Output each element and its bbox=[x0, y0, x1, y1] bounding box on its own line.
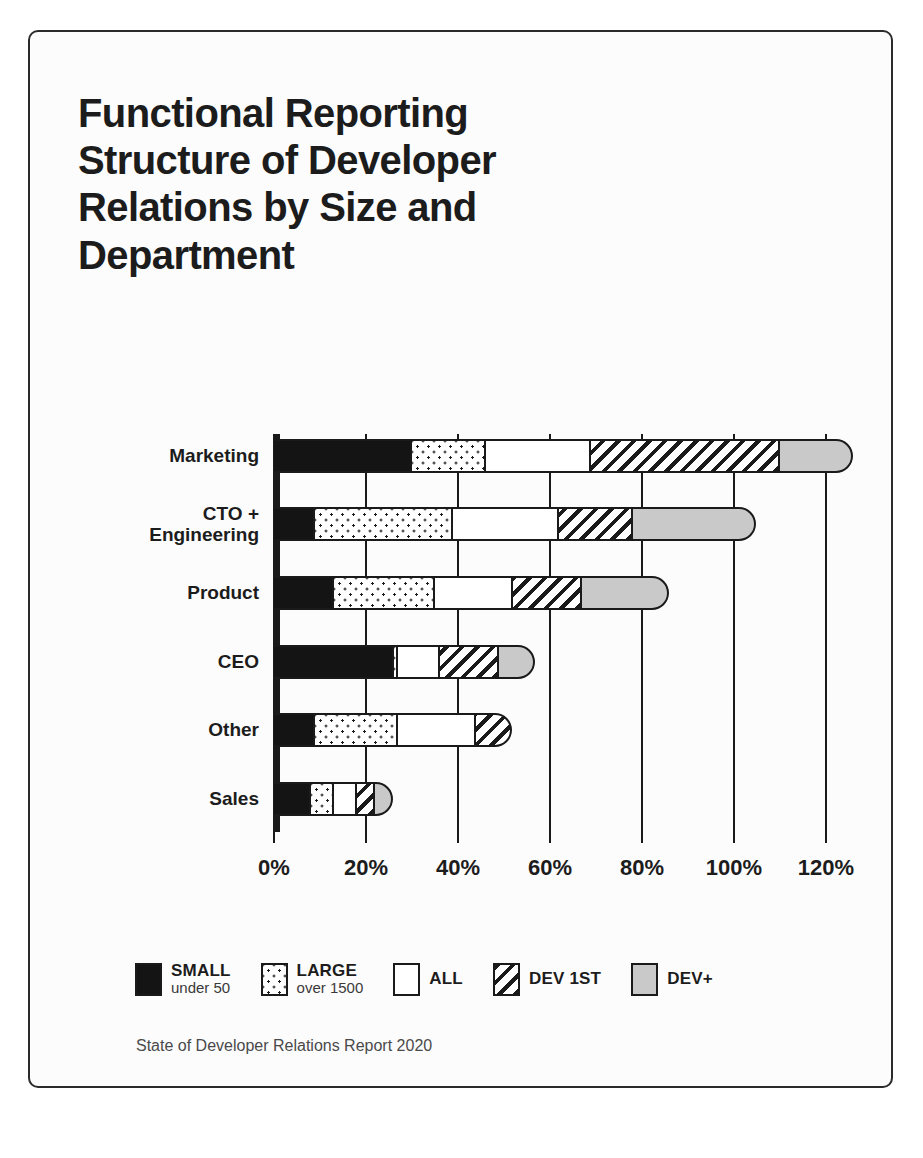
bar-row: Product bbox=[273, 576, 669, 610]
bar-segment-dev-1st bbox=[475, 713, 512, 747]
x-tick-120 bbox=[825, 832, 827, 843]
bar-segment-dev- bbox=[632, 507, 756, 541]
bar-segment-dev-1st bbox=[439, 645, 499, 679]
gridline-100 bbox=[733, 434, 735, 832]
bar-segment-small bbox=[273, 576, 333, 610]
x-tick-label: 60% bbox=[505, 855, 595, 881]
x-tick-0 bbox=[273, 832, 275, 843]
x-tick-label: 20% bbox=[321, 855, 411, 881]
legend-label: LARGE bbox=[297, 962, 364, 980]
y-axis-label: CTO + Engineering bbox=[79, 503, 259, 546]
y-axis-line bbox=[273, 434, 280, 832]
x-tick-label: 80% bbox=[597, 855, 687, 881]
bar-segment-large bbox=[333, 576, 434, 610]
bar-segment-dev- bbox=[581, 576, 668, 610]
bar-segment-small bbox=[273, 713, 314, 747]
legend-item-dev1st[interactable]: DEV 1ST bbox=[493, 963, 601, 996]
x-tick-100 bbox=[733, 832, 735, 843]
bar-segment-dev-1st bbox=[512, 576, 581, 610]
bar-segment-all bbox=[452, 507, 558, 541]
x-tick-40 bbox=[457, 832, 459, 843]
gridline-80 bbox=[641, 434, 643, 832]
bar-segment-all bbox=[333, 782, 356, 816]
hatched-swatch bbox=[493, 963, 520, 996]
bar-segment-large bbox=[310, 782, 333, 816]
x-tick-60 bbox=[549, 832, 551, 843]
x-tick-label: 40% bbox=[413, 855, 503, 881]
y-axis-label: Product bbox=[79, 582, 259, 603]
x-tick-80 bbox=[641, 832, 643, 843]
y-axis-label: Marketing bbox=[79, 445, 259, 466]
bar-segment-large bbox=[314, 507, 452, 541]
y-axis-label: Other bbox=[79, 719, 259, 740]
legend-item-small[interactable]: SMALLunder 50 bbox=[135, 962, 231, 997]
legend-text: ALL bbox=[429, 970, 463, 988]
bar-segment-large bbox=[314, 713, 397, 747]
legend-label: DEV+ bbox=[667, 970, 713, 988]
y-axis-label: CEO bbox=[79, 651, 259, 672]
x-tick-20 bbox=[365, 832, 367, 843]
white-swatch bbox=[393, 963, 420, 996]
legend-label: ALL bbox=[429, 970, 463, 988]
bar-row: Marketing bbox=[273, 439, 853, 473]
gridline-60 bbox=[549, 434, 551, 832]
bar-segment-all bbox=[485, 439, 591, 473]
legend-text: DEV 1ST bbox=[529, 970, 601, 988]
source-note: State of Developer Relations Report 2020 bbox=[136, 1037, 432, 1055]
gridline-120 bbox=[825, 434, 827, 832]
bar-segment-dev-1st bbox=[356, 782, 374, 816]
bar-row: Sales bbox=[273, 782, 393, 816]
legend-text: DEV+ bbox=[667, 970, 713, 988]
bar-segment-small bbox=[273, 782, 310, 816]
legend-label: DEV 1ST bbox=[529, 970, 601, 988]
legend-item-large[interactable]: LARGEover 1500 bbox=[261, 962, 364, 997]
plot-area: MarketingCTO + EngineeringProductCEOOthe… bbox=[245, 407, 855, 837]
legend-item-all[interactable]: ALL bbox=[393, 963, 463, 996]
legend-label: SMALL bbox=[171, 962, 231, 980]
dotted-swatch bbox=[261, 963, 288, 996]
bar-segment-large bbox=[411, 439, 485, 473]
bar-row: CEO bbox=[273, 645, 535, 679]
bar-segment-all bbox=[434, 576, 512, 610]
legend: SMALLunder 50LARGEover 1500ALLDEV 1STDEV… bbox=[135, 962, 743, 997]
bar-segment-dev- bbox=[498, 645, 535, 679]
legend-sublabel: under 50 bbox=[171, 980, 231, 996]
bar-segment-small bbox=[273, 507, 314, 541]
bar-row: Other bbox=[273, 713, 512, 747]
bar-segment-small bbox=[273, 439, 411, 473]
x-tick-label: 0% bbox=[229, 855, 319, 881]
gray-swatch bbox=[631, 963, 658, 996]
x-tick-label: 100% bbox=[689, 855, 779, 881]
bar-segment-dev- bbox=[374, 782, 392, 816]
legend-text: LARGEover 1500 bbox=[297, 962, 364, 997]
legend-text: SMALLunder 50 bbox=[171, 962, 231, 997]
bar-segment-dev-1st bbox=[558, 507, 632, 541]
gridline-40 bbox=[457, 434, 459, 832]
gridline-20 bbox=[365, 434, 367, 832]
bar-segment-small bbox=[273, 645, 393, 679]
x-tick-label: 120% bbox=[781, 855, 871, 881]
bar-segment-dev- bbox=[779, 439, 853, 473]
bar-row: CTO + Engineering bbox=[273, 507, 756, 541]
solid-black-swatch bbox=[135, 963, 162, 996]
bar-segment-all bbox=[397, 713, 475, 747]
y-axis-label: Sales bbox=[79, 788, 259, 809]
chart-card: Functional Reporting Structure of Develo… bbox=[28, 30, 893, 1088]
legend-item-devplus[interactable]: DEV+ bbox=[631, 963, 713, 996]
bar-segment-all bbox=[397, 645, 438, 679]
chart-title: Functional Reporting Structure of Develo… bbox=[78, 90, 678, 279]
bar-segment-dev-1st bbox=[590, 439, 779, 473]
legend-sublabel: over 1500 bbox=[297, 980, 364, 996]
